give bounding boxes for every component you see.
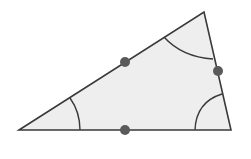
midpoint-right-side	[213, 66, 223, 76]
midpoint-top-left-side	[120, 57, 130, 67]
diagram-svg	[0, 0, 251, 159]
midpoint-bottom-side	[120, 125, 130, 135]
triangle-diagram	[0, 0, 251, 159]
